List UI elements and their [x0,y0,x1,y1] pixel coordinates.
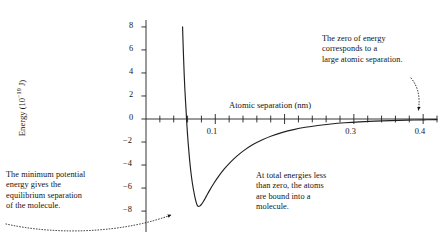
annotation-bound-atoms: At total energies less than zero, the at… [256,171,374,213]
annotation-minimum-energy: The minimum potential energy gives the e… [6,170,124,212]
y-tick-label-2: 2 [129,90,133,99]
y-tick-label--2: −2 [123,136,132,145]
x-tick-label-0-3: 0.3 [345,127,355,136]
y-tick-label-4: 4 [129,67,133,76]
interatomic-potential-energy-figure: Atomic separation (nm) Energy (10−19 J) … [0,0,444,247]
y-tick-label-0: 0 [129,113,133,122]
y-tick-label--6: −6 [123,182,132,191]
x-tick-label-0-1: 0.1 [207,127,217,136]
y-tick-label--8: −8 [123,205,132,214]
y-axis-title-prefix: Energy (10 [17,98,27,136]
y-tick-label-6: 6 [129,44,133,53]
y-axis-title-exponent: −19 [15,88,22,98]
y-tick-label-8: 8 [129,21,133,30]
zero-energy-arrow [411,78,419,110]
y-axis-title: Energy (10−19 J) [17,55,27,161]
y-axis-ticks [141,27,146,211]
x-tick-label-0-4: 0.4 [415,127,425,136]
x-axis-ticks [160,114,437,124]
y-tick-label--4: −4 [123,159,132,168]
y-axis-title-suffix: J) [17,80,27,88]
x-axis-title: Atomic separation (nm) [229,100,311,110]
annotation-zero-energy: The zero of energy corresponds to a larg… [322,34,444,65]
